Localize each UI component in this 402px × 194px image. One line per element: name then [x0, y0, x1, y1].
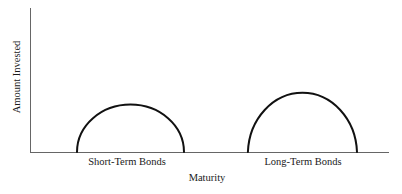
chart-canvas: [0, 0, 402, 194]
series-label-short-term-bonds: Short-Term Bonds: [88, 156, 166, 168]
bond-maturity-chart: Amount Invested Maturity Short-Term Bond…: [0, 0, 402, 194]
y-axis-label: Amount Invested: [11, 41, 23, 114]
series-label-long-term-bonds: Long-Term Bonds: [264, 156, 341, 168]
x-axis-label: Maturity: [189, 172, 226, 184]
